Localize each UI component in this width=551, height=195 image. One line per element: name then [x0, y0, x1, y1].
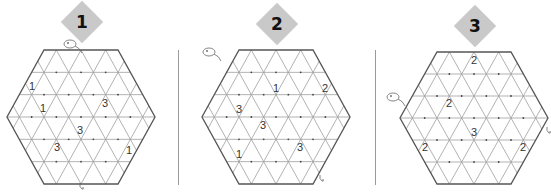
clue-number: 2 — [443, 97, 455, 109]
triangle-grid[interactable] — [0, 0, 551, 195]
snake-head-icon — [387, 93, 405, 106]
snake-tail-icon — [547, 127, 551, 133]
clue-number: 3 — [468, 126, 480, 138]
puzzle-divider — [178, 50, 179, 185]
clue-number: 2 — [517, 141, 529, 153]
puzzle-divider — [375, 50, 376, 185]
clue-number: 2 — [419, 141, 431, 153]
clue-number: 2 — [468, 54, 480, 66]
